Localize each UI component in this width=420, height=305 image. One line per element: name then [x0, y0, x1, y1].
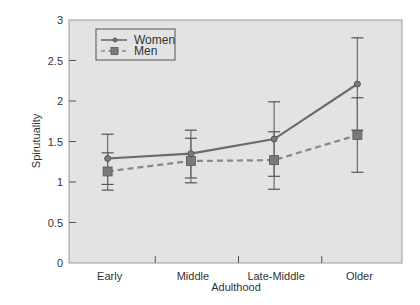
y-tick-label: 0.5: [48, 217, 63, 229]
y-tick-label: 2: [57, 95, 63, 107]
x-tick-label: Middle: [177, 270, 209, 282]
x-tick-label: Older: [346, 270, 373, 282]
data-point-circle-icon: [105, 156, 111, 162]
data-point-square-icon: [103, 167, 112, 176]
y-tick-label: 1.5: [48, 136, 63, 148]
y-axis-title: Spirutuality: [30, 113, 42, 168]
data-point-circle-icon: [271, 136, 277, 142]
x-axis-title: Adulthood: [211, 281, 261, 293]
legend-men-label: Men: [134, 44, 157, 58]
y-tick-label: 3: [57, 14, 63, 26]
data-point-square-icon: [270, 156, 279, 165]
data-point-square-icon: [186, 156, 195, 165]
data-point-circle-icon: [188, 151, 194, 157]
legend-men-marker-icon: [111, 48, 118, 55]
data-point-circle-icon: [354, 81, 360, 87]
line-chart: 00.511.522.53 EarlyMiddleLate-MiddleOlde…: [0, 0, 420, 305]
legend-women-marker-icon: [113, 38, 117, 42]
x-tick-label: Early: [97, 270, 123, 282]
y-tick-label: 1: [57, 176, 63, 188]
y-tick-label: 2.5: [48, 55, 63, 67]
y-tick-label: 0: [57, 257, 63, 269]
legend: Women Men: [96, 29, 175, 60]
data-point-square-icon: [353, 131, 362, 140]
